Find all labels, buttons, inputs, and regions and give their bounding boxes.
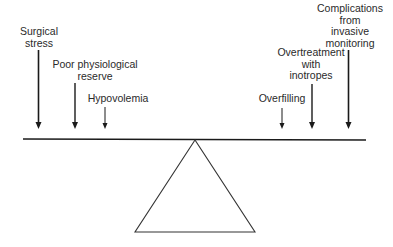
- label-line: reserve: [50, 71, 140, 83]
- label-line: inotropes: [275, 70, 347, 82]
- label-line: invasive: [312, 26, 388, 38]
- label-overfilling: Overfilling: [254, 93, 310, 105]
- label-line: monitoring: [312, 38, 388, 50]
- arrowhead-hypovolemia: [103, 123, 108, 129]
- label-line: Hypovolemia: [86, 93, 150, 105]
- label-hypovolemia: Hypovolemia: [86, 93, 150, 105]
- label-line: Surgical: [19, 26, 59, 38]
- label-line: Poor physiological: [50, 59, 140, 71]
- label-overtreatment-with-inotropes: Overtreatment with inotropes: [275, 47, 347, 82]
- arrowhead-poor-physiological-reserve: [72, 122, 78, 129]
- label-line: stress: [19, 38, 59, 50]
- arrowhead-surgical-stress: [36, 122, 42, 129]
- fulcrum-triangle: [135, 140, 255, 232]
- arrowhead-overfilling: [280, 123, 285, 129]
- label-poor-physiological-reserve: Poor physiological reserve: [50, 59, 140, 82]
- label-complications-from-invasive-monitoring: Complications from invasive monitoring: [312, 3, 388, 49]
- arrowhead-overtreatment-with-inotropes: [309, 122, 315, 129]
- arrowhead-complications-from-invasive-monitoring: [346, 122, 352, 129]
- label-line: Overfilling: [254, 93, 310, 105]
- label-line: Complications: [312, 3, 388, 15]
- label-surgical-stress: Surgical stress: [19, 26, 59, 49]
